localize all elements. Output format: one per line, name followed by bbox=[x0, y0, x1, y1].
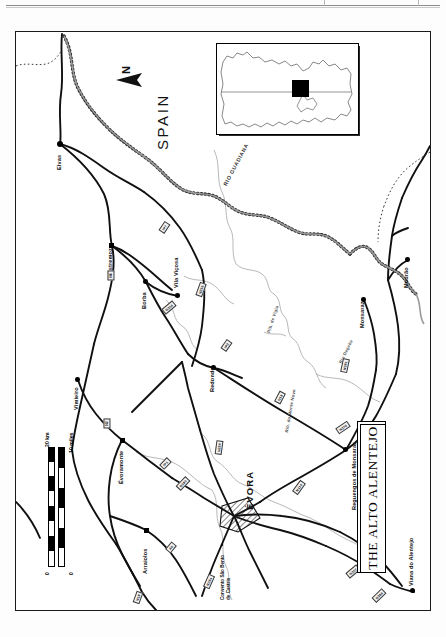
town-label-arraiolos: Arraiolos bbox=[142, 549, 148, 574]
town-marker-mourao bbox=[405, 257, 410, 262]
inset-region-marker bbox=[292, 80, 309, 97]
town-label-viana: Viana do Alentejo bbox=[408, 538, 414, 586]
town-label-elvas: Elvas bbox=[56, 155, 62, 170]
town-label-mourao: Mourão bbox=[403, 267, 409, 288]
country-label-spain: SPAIN bbox=[154, 93, 171, 150]
map-title-cartouche: THE ALTO ALENTEJO bbox=[357, 421, 386, 573]
scale-bar: 20 km 10 miles 0 0 bbox=[34, 447, 74, 592]
town-marker-vimieiro bbox=[75, 377, 80, 382]
town-label-monsaraz: Monsaraz bbox=[359, 301, 365, 328]
town-label-evora: ÉVORA bbox=[244, 471, 255, 510]
town-label-vimieiro: Vimieiro bbox=[73, 387, 79, 410]
scale-bar-km bbox=[48, 447, 55, 567]
inset-map-portugal bbox=[216, 43, 359, 135]
town-label-redondo: Redondo bbox=[209, 367, 215, 392]
map-frame: N SPAIN RIO GUADIANA Rio Degebe Rib. de … bbox=[15, 31, 431, 611]
poi-label-convento-line2: de Castris bbox=[226, 578, 231, 600]
scan-artifact-line bbox=[6, 5, 440, 6]
town-marker-arraiolos bbox=[144, 528, 149, 533]
road-shield-n4: N4 bbox=[107, 271, 114, 281]
poi-marker-convento bbox=[221, 544, 223, 546]
town-marker-borba bbox=[143, 279, 148, 284]
town-label-evoramonte: Évoramonte bbox=[118, 451, 124, 484]
north-arrow-label: N bbox=[120, 66, 132, 74]
town-marker-vila-vicosa bbox=[175, 293, 180, 298]
scale-label-km: 20 km bbox=[44, 432, 50, 447]
scale-bar-miles bbox=[58, 447, 65, 567]
scan-artifact-tick bbox=[418, 0, 419, 6]
map-canvas: N SPAIN RIO GUADIANA Rio Degebe Rib. de … bbox=[16, 32, 430, 610]
scale-zero-km: 0 bbox=[44, 572, 50, 575]
town-label-borba: Borba bbox=[141, 292, 147, 309]
town-marker-elvas bbox=[57, 141, 63, 147]
poi-label-convento-line1: Convento São Bento bbox=[220, 555, 225, 600]
scanned-page: N SPAIN RIO GUADIANA Rio Degebe Rib. de … bbox=[0, 0, 446, 637]
town-label-vila-vicosa: Vila Viçosa bbox=[173, 258, 179, 288]
scan-artifact-line bbox=[6, 7, 440, 8]
town-marker-evoramonte bbox=[120, 438, 125, 443]
road-shield-n2: N2 bbox=[103, 419, 110, 429]
scale-zero-miles: 0 bbox=[68, 572, 74, 575]
scan-artifact-tick bbox=[324, 0, 325, 6]
inset-outline bbox=[217, 44, 358, 134]
map-title: THE ALTO ALENTEJO bbox=[365, 426, 381, 570]
scale-label-miles: 10 miles bbox=[68, 433, 74, 453]
